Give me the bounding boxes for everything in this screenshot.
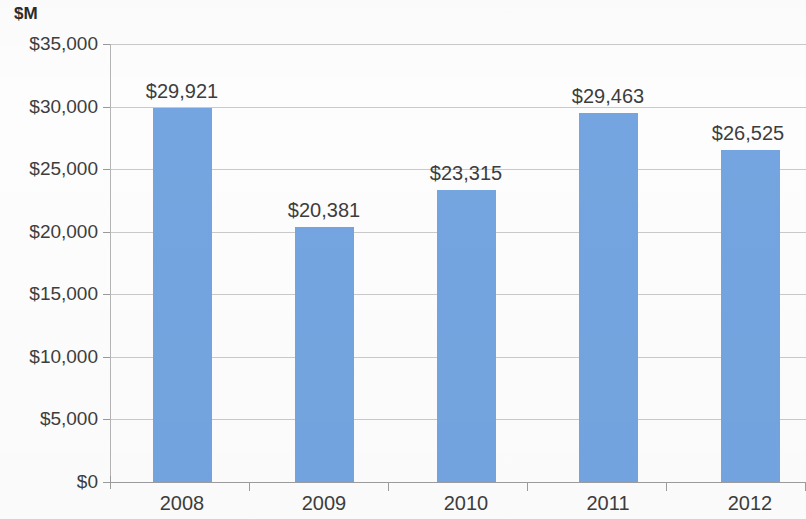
bar-value-label-2010: $23,315 (430, 162, 502, 185)
y-axis-tick-mark (103, 169, 110, 170)
category-label-2010: 2010 (444, 492, 489, 515)
bar-value-label-2008: $29,921 (146, 80, 218, 103)
category-label-2009: 2009 (302, 492, 347, 515)
y-tick-label: $35,000 (0, 33, 98, 55)
y-axis-tick-mark (103, 232, 110, 233)
category-label-2012: 2012 (728, 492, 773, 515)
y-tick-label: $15,000 (0, 283, 98, 305)
bar-2011[interactable] (579, 113, 638, 482)
y-axis-tick-mark (103, 357, 110, 358)
y-tick-label: $5,000 (0, 408, 98, 430)
category-axis-line (103, 482, 806, 483)
category-label-2011: 2011 (586, 492, 629, 515)
bars-layer (110, 44, 806, 482)
bar-value-label-2009: $20,381 (288, 199, 360, 222)
y-axis-tick-mark (103, 44, 110, 45)
bar-2012[interactable] (721, 150, 780, 482)
bar-value-label-2012: $26,525 (712, 122, 784, 145)
category-axis-tick (110, 476, 111, 489)
bar-chart: $M $35,000 $30,000 $25,000 $20,000 $15,0… (0, 0, 806, 519)
y-axis-tick-mark (103, 294, 110, 295)
y-tick-label: $20,000 (0, 221, 98, 243)
category-axis-tick (388, 482, 389, 491)
category-label-2008: 2008 (160, 492, 205, 515)
bar-2009[interactable] (295, 227, 354, 482)
y-tick-label: $30,000 (0, 96, 98, 118)
bar-2010[interactable] (437, 190, 496, 482)
y-tick-label: $25,000 (0, 158, 98, 180)
category-axis-tick (666, 482, 667, 491)
category-axis-tick (249, 482, 250, 491)
y-tick-label: $0 (0, 471, 98, 493)
category-axis-tick (527, 482, 528, 491)
y-axis-tick-mark (103, 419, 110, 420)
bar-2008[interactable] (153, 108, 212, 482)
y-axis-tick-labels: $35,000 $30,000 $25,000 $20,000 $15,000 … (0, 0, 98, 519)
bar-value-label-2011: $29,463 (572, 85, 644, 108)
y-tick-label: $10,000 (0, 346, 98, 368)
y-axis-tick-mark (103, 107, 110, 108)
